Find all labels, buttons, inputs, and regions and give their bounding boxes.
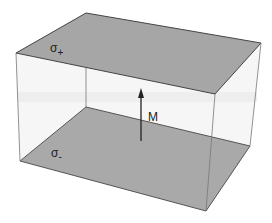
mid-band [17,92,257,102]
magnetization-label: M [148,110,158,124]
slab-diagram: σ+ σ- M [0,0,272,223]
